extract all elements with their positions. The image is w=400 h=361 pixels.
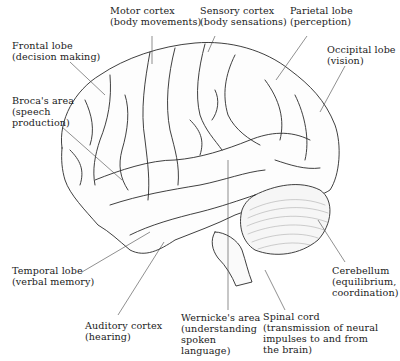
leader-occipital-lobe: [320, 66, 345, 112]
label-parietal-lobe: Parietal lobe (perception): [290, 5, 353, 27]
label-occipital-lobe: Occipital lobe (vision): [327, 44, 396, 66]
leader-spinal-cord: [265, 270, 285, 310]
leader-cerebellum: [318, 220, 345, 262]
label-sensory-cortex: Sensory cortex (body sensations): [200, 5, 287, 27]
label-spinal-cord: Spinal cord (transmission of neural impu…: [263, 311, 378, 355]
label-motor-cortex: Motor cortex (body movements): [110, 5, 201, 27]
label-frontal-lobe: Frontal lobe (decision making): [12, 40, 100, 62]
label-wernickes-area: Wernicke's area (understanding spoken la…: [181, 312, 260, 356]
label-cerebellum: Cerebellum (equilibrium, coordination): [332, 265, 399, 298]
label-auditory-cortex: Auditory cortex (hearing): [85, 320, 162, 342]
label-temporal-lobe: Temporal lobe (verbal memory): [12, 265, 94, 287]
brain-diagram: Motor cortex (body movements) Sensory co…: [0, 0, 400, 361]
label-brocas-area: Broca's area (speech production): [12, 95, 74, 128]
